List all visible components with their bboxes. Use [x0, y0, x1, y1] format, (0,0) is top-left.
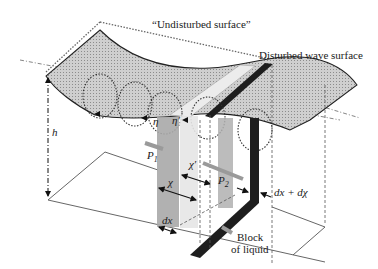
eta-prime-label: η′: [172, 114, 180, 126]
block-label-line1: Block: [237, 231, 264, 243]
depth-label: h: [52, 126, 58, 138]
p1-label: P1: [146, 149, 158, 164]
wave-diagram: h “Undisturbed surface” Disturbed wave s…: [0, 0, 378, 269]
undisturbed-surface-label: “Undisturbed surface”: [152, 18, 251, 30]
dx-dchi-label: dx + dχ: [274, 186, 309, 198]
chi-prime-label: χ′: [188, 158, 197, 170]
disturbed-surface: [46, 30, 357, 130]
disturbed-surface-label: Disturbed wave surface: [259, 49, 363, 61]
block-label-line2: of liquid: [231, 243, 269, 255]
dx-label: dx: [162, 214, 173, 226]
depth-indicator: h: [48, 78, 58, 196]
eta-label: η: [153, 115, 158, 127]
